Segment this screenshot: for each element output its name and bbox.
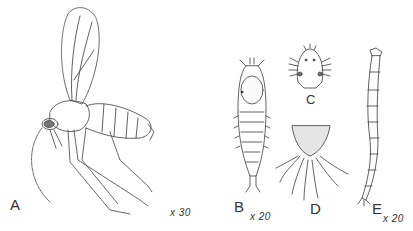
figure-b-label: B (234, 198, 244, 215)
figure-a-adult-midge (32, 8, 154, 214)
figure-d-label: D (310, 200, 321, 217)
drawings (0, 0, 413, 231)
figure-e-label: E (372, 200, 382, 217)
figure-a-scale: x 30 (170, 207, 191, 218)
figure-b-scale: x 20 (250, 211, 271, 222)
figure-c-head-capsule (289, 44, 331, 88)
figure-b-pupa (234, 58, 270, 192)
figure-a-label: A (10, 196, 20, 213)
figure-e-larva (358, 48, 382, 206)
figure-e-scale: x 20 (383, 213, 404, 224)
figure-d-terminal-segment (276, 126, 348, 200)
illustration-plate: A x 30 B x 20 C D E x 20 (0, 0, 413, 231)
figure-c-label: C (306, 92, 315, 107)
